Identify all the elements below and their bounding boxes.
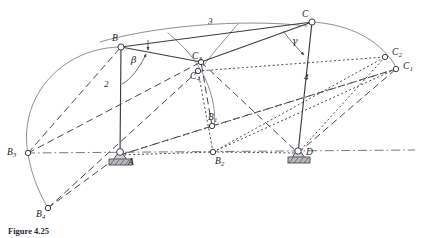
- figure-caption: Figure 4.25: [8, 226, 49, 236]
- link-4-CD: [298, 22, 312, 153]
- arc-crank-A-lower: [28, 153, 48, 208]
- link-3-BC: [121, 22, 312, 47]
- label-point-C1: C1: [403, 62, 413, 72]
- centerline-horizontal: [26, 150, 415, 153]
- label-angle-beta: β: [131, 55, 137, 65]
- label-point-C2: C2: [392, 48, 402, 58]
- dotted-B2-to-D: [213, 152, 298, 153]
- label-link-2: 2: [104, 80, 109, 89]
- dashed-B3-to-C3: [28, 47, 121, 153]
- dotted-D-to-C2: [298, 57, 385, 153]
- label-point-C: C: [302, 10, 308, 20]
- joint-C2: [382, 54, 387, 59]
- label-point-A: A: [128, 158, 134, 168]
- label-point-B2: B2: [215, 157, 224, 167]
- joint-B1: [209, 123, 214, 128]
- joint-C: [309, 19, 315, 25]
- label-angle-gamma: γ: [292, 36, 298, 46]
- dashed-B4-to-C4: [48, 71, 198, 208]
- label-point-B3: B3: [7, 148, 16, 158]
- label-link-4: 4: [304, 73, 309, 82]
- arc-coupler-upper: [100, 23, 307, 42]
- dashed-C3-to-D: [201, 62, 298, 153]
- dotted-B2-to-C2: [213, 57, 385, 152]
- label-point-D: D: [306, 148, 313, 158]
- dashed-A-B3-long: [28, 62, 201, 153]
- joint-A: [117, 149, 124, 156]
- label-link-3: 3: [208, 17, 213, 26]
- label-point-C4: C4: [190, 72, 200, 82]
- label-point-B1: B1: [208, 113, 217, 123]
- dotted-C4-to-C2: [198, 57, 385, 71]
- label-point-B: B: [112, 34, 118, 44]
- arc-crank-A-upper: [26, 47, 121, 153]
- arc-crank-D: [312, 22, 396, 69]
- joint-C1: [393, 66, 398, 71]
- figure-container: A B C D B1 B2 B3 B4 C1 C2 C3 C4 2 3 4 β …: [0, 0, 429, 238]
- link-2-AB: [120, 47, 121, 155]
- joint-B2: [210, 149, 215, 154]
- joint-B: [118, 44, 124, 50]
- dashed-D-to-C1: [298, 69, 396, 153]
- label-point-C3: C3: [192, 52, 202, 62]
- joint-B3: [25, 150, 30, 155]
- joint-B4: [45, 205, 50, 210]
- joint-D: [295, 148, 301, 154]
- label-point-B4: B4: [36, 210, 45, 220]
